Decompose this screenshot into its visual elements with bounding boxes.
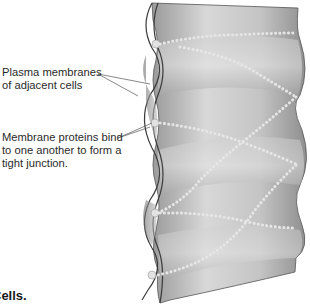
label-plasma-membranes: Plasma membranes of adjacent cells [2, 66, 101, 92]
figure-caption: Cells. [0, 288, 27, 303]
label-line: tight junction. [2, 157, 123, 170]
label-line: to one another to form a [2, 144, 123, 157]
leader-line-protein-2 [118, 127, 150, 138]
leader-line-plasma-1 [98, 74, 150, 84]
label-line: Plasma membranes [2, 66, 101, 79]
label-membrane-proteins: Membrane proteins bind to one another to… [2, 131, 123, 170]
leader-line-plasma-2 [98, 74, 138, 96]
junction-node-4 [148, 271, 156, 279]
junction-node-2 [151, 119, 159, 127]
label-line: Membrane proteins bind [2, 131, 123, 144]
label-line: of adjacent cells [2, 79, 101, 92]
